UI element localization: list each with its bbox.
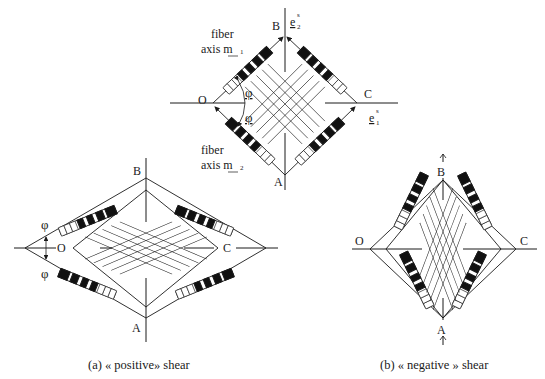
label-B: B	[437, 165, 445, 179]
right-diagram	[352, 154, 537, 345]
svg-text:2: 2	[240, 164, 244, 172]
left-diagram-labels: B O C A φ φ	[41, 164, 231, 335]
label-O: O	[198, 93, 207, 107]
svg-text:2: 2	[297, 23, 301, 31]
label-O: O	[57, 241, 66, 255]
svg-text:1: 1	[376, 119, 380, 127]
svg-text:s: s	[297, 11, 300, 19]
fiber1-label-line1: fiber	[211, 27, 234, 41]
angle-phi-lower: φ	[245, 110, 253, 125]
caption-positive-shear: (a) « positive» shear	[88, 358, 190, 373]
label-C: C	[223, 241, 231, 255]
label-C: C	[520, 234, 528, 248]
basis-e2: e	[290, 15, 295, 29]
left-diagram	[14, 158, 278, 342]
basis-e1: e	[369, 111, 374, 125]
label-B: B	[272, 19, 280, 33]
figure-canvas: B O C A e s 2 e s 1 fiber axis m 1 fiber…	[0, 0, 545, 379]
label-A: A	[132, 321, 141, 335]
angle-phi-lower: φ	[41, 266, 49, 281]
angle-phi-upper: φ	[245, 85, 253, 100]
angle-phi-upper: φ	[41, 217, 49, 232]
label-O: O	[355, 234, 364, 248]
right-diagram-labels: B O C A	[355, 165, 528, 337]
svg-text:s: s	[376, 107, 379, 115]
fiber1-label-line2: axis m	[201, 42, 233, 56]
label-A: A	[274, 175, 283, 189]
svg-text:1: 1	[240, 48, 244, 56]
label-B: B	[133, 164, 141, 178]
label-C: C	[364, 87, 372, 101]
fiber2-label-line2: axis m	[201, 158, 233, 172]
caption-negative-shear: (b) « negative » shear	[380, 358, 488, 373]
fiber2-label-line1: fiber	[201, 143, 224, 157]
label-A: A	[437, 323, 446, 337]
shear-diagram: B O C A e s 2 e s 1 fiber axis m 1 fiber…	[0, 0, 545, 379]
